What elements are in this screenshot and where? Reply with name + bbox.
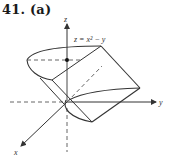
surface-right-edge: [101, 46, 140, 88]
surface-lower-curve: [69, 88, 140, 100]
y-axis-label: y: [158, 98, 163, 107]
surface-bottom-edge: [92, 88, 140, 122]
surface-top-edge: [27, 46, 101, 60]
surface-left-curve: [27, 60, 52, 80]
z-intercept-point: [65, 58, 69, 62]
surface-bottom-curve: [65, 100, 92, 122]
surface-equation-label: z = x² − y: [73, 35, 106, 44]
surface-diagram: z y x z = x² − y: [0, 0, 170, 157]
hidden-edge-diagonal: [67, 66, 102, 102]
z-axis-label: z: [63, 15, 68, 24]
surface-front-edge: [52, 80, 92, 122]
x-axis: [21, 102, 67, 146]
x-axis-label: x: [13, 148, 18, 157]
surface-outer-edge: [40, 78, 64, 104]
